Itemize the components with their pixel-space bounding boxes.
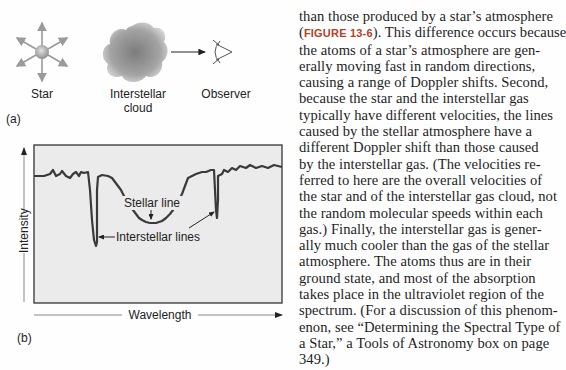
text-line: takes place in the ultraviolet region of… — [299, 286, 553, 302]
text-line: than those produced by a star’s atmosphe… — [299, 8, 553, 24]
observer-eye-icon — [213, 40, 232, 64]
body-text: than those produced by a star’s atmosphe… — [299, 8, 553, 368]
text-line: different Doppler shift than those cause… — [299, 139, 553, 155]
text-line: the atoms of a star’s atmosphere are gen… — [299, 42, 553, 58]
text-line: the star and of the interstellar gas clo… — [299, 188, 553, 204]
interstellar-cloud-icon — [103, 22, 168, 82]
interstellar-lines-label: Interstellar lines — [116, 230, 206, 244]
text-line: the random molecular speeds within each — [299, 205, 553, 221]
text-line: (FIGURE 13-6). This difference occurs be… — [299, 24, 553, 41]
text-line: typically have different velocities, the… — [299, 107, 553, 123]
text-line: a Star,” a Tools of Astronomy box on pag… — [299, 335, 553, 351]
text-fragment: ). This difference occurs because — [373, 24, 566, 40]
figure-13-6: Star Interstellar cloud Observer (a) Ste… — [0, 0, 290, 367]
text-line: causing a range of Doppler shifts. Secon… — [299, 74, 553, 90]
text-line: because the star and the interstellar ga… — [299, 90, 553, 106]
text-line: by the interstellar gas. (The velocities… — [299, 156, 553, 172]
panel-a-label: (a) — [6, 112, 21, 126]
text-line: gas.) Finally, the interstellar gas is g… — [299, 221, 553, 237]
text-line: ally much cooler than the gas of the ste… — [299, 237, 553, 253]
panel-b-label: (b) — [17, 331, 32, 345]
text-line: spectrum. (For a discussion of this phen… — [299, 302, 553, 318]
star-icon — [17, 23, 67, 81]
figure-reference-link[interactable]: FIGURE 13-6 — [304, 27, 373, 39]
text-line: atmosphere. The atoms thus are in their — [299, 253, 553, 269]
x-axis-label: Wavelength — [122, 308, 198, 322]
text-line: erally moving fast in random directions, — [299, 58, 553, 74]
stellar-line-label: Stellar line — [120, 196, 184, 210]
spectrum-plot — [0, 130, 290, 370]
text-line: enon, see “Determining the Spectral Type… — [299, 319, 553, 335]
text-line: ferred to here are the overall velocitie… — [299, 172, 553, 188]
interstellar-cloud-label: Interstellar cloud — [98, 87, 178, 115]
observer-label: Observer — [194, 87, 258, 101]
text-line: 349.) — [299, 351, 553, 367]
interstellar-cloud-label-line2: cloud — [98, 101, 178, 115]
interstellar-cloud-label-line1: Interstellar — [98, 87, 178, 101]
y-axis-label: Intensity — [17, 213, 31, 253]
star-label: Star — [22, 87, 62, 101]
text-line: ground state, and most of the absorption — [299, 270, 553, 286]
text-line: caused by the stellar atmosphere have a — [299, 123, 553, 139]
